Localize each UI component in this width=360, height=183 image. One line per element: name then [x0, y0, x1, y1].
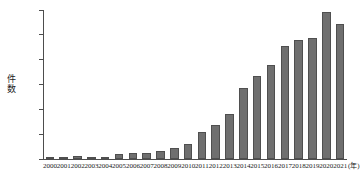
y-axis-title-char-1: 件	[4, 74, 18, 84]
bar-slot	[267, 10, 276, 159]
x-axis-tick-label: 2014	[236, 162, 250, 171]
x-axis-tick-label: 2012	[209, 162, 223, 171]
bar[interactable]	[129, 153, 138, 159]
y-axis-title-char-2: 数	[4, 84, 18, 94]
bar[interactable]	[198, 132, 207, 159]
bar-slot	[156, 10, 165, 159]
x-axis-tick-label: 2013	[223, 162, 237, 171]
bar-slot	[170, 10, 179, 159]
x-axis-tick-label: 2008	[154, 162, 168, 171]
bar[interactable]	[59, 157, 68, 159]
bar-slot	[198, 10, 207, 159]
x-axis-tick-label: 2009	[167, 162, 181, 171]
bar[interactable]	[115, 154, 124, 159]
bar-slot	[87, 10, 96, 159]
x-axis-tick-label: 2004	[98, 162, 112, 171]
bar-slot	[101, 10, 110, 159]
x-axis-tick-label: 2006	[126, 162, 140, 171]
x-axis-tick-label: 2000	[43, 162, 57, 171]
bars-layer	[43, 10, 347, 159]
bar-slot	[239, 10, 248, 159]
x-axis-labels: 2000200120022003200420052006200720082009…	[43, 162, 347, 180]
x-axis-tick-label: 2002	[71, 162, 85, 171]
x-axis-tick-label: 2015	[250, 162, 264, 171]
bar-slot	[281, 10, 290, 159]
x-axis-line	[43, 159, 347, 160]
bar-slot	[336, 10, 345, 159]
bar-slot	[294, 10, 303, 159]
x-axis-tick-label: 2020	[319, 162, 333, 171]
bar[interactable]	[46, 157, 55, 159]
bar-slot	[115, 10, 124, 159]
bar-slot	[225, 10, 234, 159]
x-axis-tick-label: 2021	[333, 162, 347, 171]
bar[interactable]	[87, 157, 96, 159]
x-axis-tick-label: 2010	[181, 162, 195, 171]
y-axis-title: 件 数	[4, 74, 18, 94]
bar[interactable]	[267, 65, 276, 159]
bar[interactable]	[308, 38, 317, 159]
bar[interactable]	[336, 24, 345, 159]
bar[interactable]	[281, 46, 290, 159]
bar[interactable]	[184, 144, 193, 159]
bar[interactable]	[156, 151, 165, 159]
x-axis-tick-label: 2016	[264, 162, 278, 171]
bar[interactable]	[225, 114, 234, 159]
x-axis-tick-label: 2018	[292, 162, 306, 171]
bar-slot	[73, 10, 82, 159]
x-axis-tick-label: 2011	[195, 162, 209, 171]
bar[interactable]	[239, 88, 248, 159]
bar-slot	[253, 10, 262, 159]
x-axis-tick-label: 2019	[306, 162, 320, 171]
bar[interactable]	[322, 12, 331, 159]
bar[interactable]	[170, 148, 179, 159]
bar[interactable]	[73, 156, 82, 159]
x-axis-tick-label: 2007	[140, 162, 154, 171]
bar-slot	[129, 10, 138, 159]
bar[interactable]	[211, 125, 220, 159]
bar-slot	[142, 10, 151, 159]
bar[interactable]	[253, 76, 262, 159]
bar-slot	[59, 10, 68, 159]
bar-slot	[322, 10, 331, 159]
bar-slot	[46, 10, 55, 159]
bar-slot	[211, 10, 220, 159]
bar-slot	[184, 10, 193, 159]
x-axis-tick-label: 2003	[84, 162, 98, 171]
x-axis-tick-label: 2017	[278, 162, 292, 171]
bar[interactable]	[294, 40, 303, 159]
bar-slot	[308, 10, 317, 159]
x-axis-tick-label: 2005	[112, 162, 126, 171]
bar[interactable]	[142, 153, 151, 159]
bar[interactable]	[101, 157, 110, 159]
x-axis-unit-label: (年)	[348, 162, 360, 171]
x-axis-tick-label: 2001	[57, 162, 71, 171]
